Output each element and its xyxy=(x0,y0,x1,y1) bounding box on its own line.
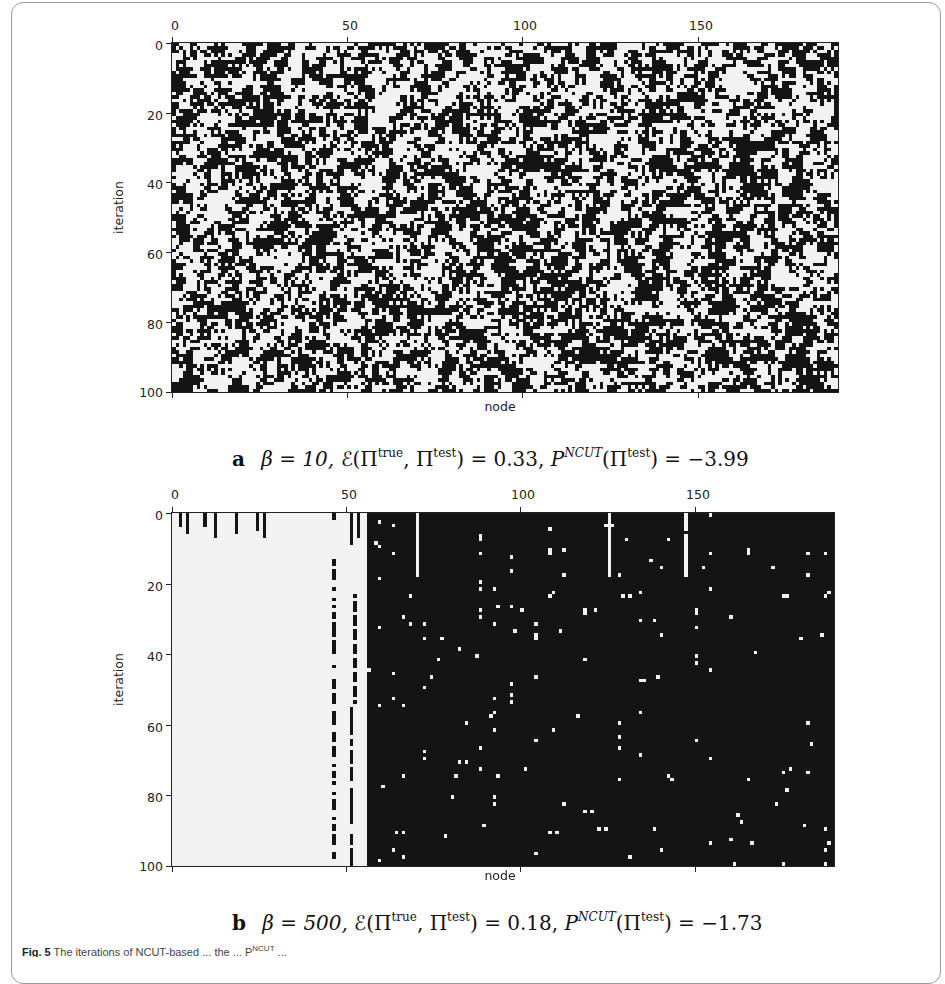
error-mid: , Π xyxy=(403,447,433,471)
ytick-mark xyxy=(166,725,171,726)
xtick-label: 50 xyxy=(342,18,358,33)
sup-test: test xyxy=(447,910,470,924)
xtick-mark xyxy=(698,37,699,42)
xtick-mark xyxy=(347,393,348,398)
ytick-mark xyxy=(166,113,171,114)
ytick-label: 20 xyxy=(133,579,163,594)
beta-value: β = 10, xyxy=(261,447,334,471)
p-label: P xyxy=(565,911,578,935)
ytick-mark xyxy=(166,513,171,514)
p-mid: (Π xyxy=(602,447,627,471)
ytick-label: 80 xyxy=(133,790,163,805)
sup-test: test xyxy=(627,446,650,460)
ytick-label: 40 xyxy=(133,177,163,192)
sup-true: true xyxy=(378,446,403,460)
panel-letter: a xyxy=(232,447,245,471)
ytick-label: 20 xyxy=(133,108,163,123)
xtick-mark xyxy=(522,393,523,398)
xtick-label: 150 xyxy=(686,487,710,502)
x-axis-label: node xyxy=(484,868,515,883)
error-label: ℰ(Π xyxy=(341,447,378,471)
sup-ncut: NCUT xyxy=(564,446,602,460)
xtick-mark xyxy=(172,867,173,872)
panel-caption-a: a β = 10, ℰ(Πtrue, Πtest) = 0.33, PNCUT(… xyxy=(232,446,749,471)
ytick-mark xyxy=(166,43,171,44)
ytick-label: 60 xyxy=(133,247,163,262)
ytick-mark xyxy=(166,182,171,183)
xtick-mark xyxy=(520,867,521,872)
error-label: ℰ(Π xyxy=(354,911,391,935)
ytick-mark xyxy=(166,654,171,655)
ytick-label: 0 xyxy=(133,38,163,53)
xtick-mark xyxy=(346,507,347,512)
xtick-label: 50 xyxy=(341,487,357,502)
ytick-mark xyxy=(166,322,171,323)
figure-caption-tail: ... xyxy=(278,946,287,957)
xtick-mark xyxy=(172,507,173,512)
figure-caption-super: NCUT xyxy=(252,944,274,953)
xtick-label: 100 xyxy=(511,487,535,502)
figure-caption-label: Fig. 5 xyxy=(22,946,51,957)
beta-value: β = 500, xyxy=(262,911,348,935)
figure-caption: Fig. 5 The iterations of NCUT-based ... … xyxy=(22,944,287,957)
x-axis-label: node xyxy=(484,399,515,414)
sup-test: test xyxy=(433,446,456,460)
heatmap-a xyxy=(172,43,838,392)
xtick-mark xyxy=(522,37,523,42)
sup-ncut: NCUT xyxy=(578,910,616,924)
figure-caption-text: The iterations of NCUT-based ... the ...… xyxy=(54,946,253,957)
ytick-label: 0 xyxy=(133,508,163,523)
xtick-label: 0 xyxy=(171,18,179,33)
xtick-mark xyxy=(695,507,696,512)
ytick-mark xyxy=(166,584,171,585)
p-value: ) = −3.99 xyxy=(650,447,749,471)
ytick-mark xyxy=(166,252,171,253)
ytick-label: 40 xyxy=(133,649,163,664)
xtick-mark xyxy=(347,37,348,42)
error-value: ) = 0.33, xyxy=(456,447,544,471)
p-label: P xyxy=(551,447,564,471)
error-value: ) = 0.18, xyxy=(470,911,558,935)
ytick-label: 60 xyxy=(133,720,163,735)
ytick-mark xyxy=(166,392,171,393)
xtick-mark xyxy=(698,393,699,398)
xtick-label: 100 xyxy=(513,18,537,33)
xtick-mark xyxy=(346,867,347,872)
sup-true: true xyxy=(392,910,417,924)
ytick-mark xyxy=(166,795,171,796)
p-mid: (Π xyxy=(616,911,641,935)
xtick-mark xyxy=(520,507,521,512)
xtick-mark xyxy=(172,393,173,398)
panel-letter: b xyxy=(232,911,246,935)
y-axis-label: iteration xyxy=(111,181,126,234)
sup-test: test xyxy=(641,910,664,924)
xtick-label: 0 xyxy=(171,487,179,502)
xtick-mark xyxy=(172,37,173,42)
ytick-mark xyxy=(166,866,171,867)
ytick-label: 100 xyxy=(133,859,163,874)
ytick-label: 80 xyxy=(133,317,163,332)
heatmap-b xyxy=(172,513,834,866)
panel-caption-b: b β = 500, ℰ(Πtrue, Πtest) = 0.18, PNCUT… xyxy=(232,910,763,935)
xtick-label: 150 xyxy=(689,18,713,33)
y-axis-label: iteration xyxy=(111,653,126,706)
xtick-mark xyxy=(695,867,696,872)
error-mid: , Π xyxy=(417,911,447,935)
ytick-label: 100 xyxy=(133,385,163,400)
p-value: ) = −1.73 xyxy=(664,911,763,935)
